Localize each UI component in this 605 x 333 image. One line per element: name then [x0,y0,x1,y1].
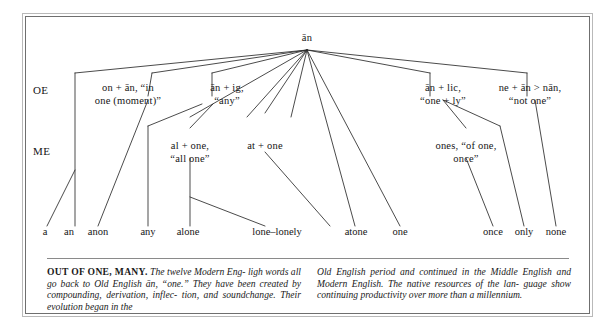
leaf-alone: alone [177,226,200,237]
leaf-a: a [43,226,48,237]
leaf-anon: anon [88,226,108,237]
leaf-once: once [483,226,503,237]
node-ne-an-nan: ne + ān > nān, “not one” [499,82,562,107]
node-at-one: at + one [247,140,283,153]
node-an-lic: ān + lic, “one + ly” [420,82,466,107]
caption-headword: OUT OF ONE, MANY. [47,266,148,277]
leaf-any: any [140,226,155,237]
caption-column-left: OUT OF ONE, MANY. The twelve Modern Eng-… [47,266,301,312]
leaf-only: only [515,226,534,237]
figure-page: ān OE ME on + ān, “in one (moment)” ān +… [0,0,605,333]
caption-divider [47,258,569,259]
node-an-ig: ān + ig, “any” [210,82,243,107]
node-on-an: on + ān, “in one (moment)” [95,82,161,107]
leaf-one: one [392,226,407,237]
era-label-oe: OE [33,84,48,96]
leaf-an: an [64,226,74,237]
node-root: ān [302,32,312,45]
node-ones: ones, “of one, once” [435,140,496,165]
node-al-one: al + one, “all one” [170,140,209,165]
leaf-none: none [546,226,566,237]
caption: OUT OF ONE, MANY. The twelve Modern Eng-… [47,266,571,312]
leaf-lone-lonely: lone–lonely [252,226,302,237]
caption-column-right: Old English period and continued in the … [317,266,571,312]
era-label-me: ME [33,145,50,157]
leaf-atone: atone [345,226,368,237]
